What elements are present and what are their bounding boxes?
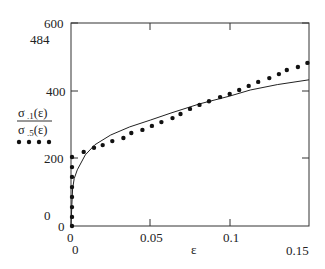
y-tick-0: 0: [58, 219, 65, 234]
data-point: [70, 205, 74, 209]
plot-frame: [71, 23, 309, 226]
x-tick-0.15: 0.15: [286, 243, 309, 258]
data-point: [82, 150, 86, 154]
x-axis-ticks: [150, 23, 230, 226]
data-point: [70, 155, 74, 159]
data-point: [188, 107, 192, 111]
data-point: [70, 224, 74, 228]
y-annotation-484: 484: [30, 32, 50, 47]
series-sigma-0.1-line: [71, 80, 309, 226]
data-point: [110, 139, 114, 143]
data-point: [197, 103, 201, 107]
data-point: [277, 72, 281, 76]
data-point: [70, 215, 74, 219]
data-point: [121, 136, 125, 140]
data-point: [129, 131, 133, 135]
x-tick-0.05: 0.05: [140, 230, 163, 245]
y-tick-600: 600: [44, 16, 64, 31]
data-point: [159, 120, 163, 124]
data-point: [178, 112, 182, 116]
data-point: [70, 195, 74, 199]
legend-dotted-marker: [17, 140, 51, 144]
data-point: [256, 80, 260, 84]
data-point: [70, 185, 74, 189]
data-point: [92, 146, 96, 150]
y-tick-200: 200: [44, 151, 64, 166]
data-point: [207, 99, 211, 103]
data-point: [70, 175, 74, 179]
stress-strain-chart: 600 484 400 200 0 0 0 0 0.05 0.1 0.15 ε …: [0, 0, 325, 269]
data-point: [150, 124, 154, 128]
x-tick-0.1: 0.1: [223, 230, 239, 245]
legend-denominator: σ .5(ε): [18, 123, 47, 138]
data-point: [140, 128, 144, 132]
data-point: [170, 116, 174, 120]
data-point: [296, 65, 300, 69]
data-point: [70, 165, 74, 169]
data-point: [247, 84, 251, 88]
data-point: [237, 88, 241, 92]
data-point: [218, 95, 222, 99]
legend-numerator: σ .1(ε): [18, 106, 47, 121]
data-point: [228, 92, 232, 96]
data-point: [285, 68, 289, 72]
x-axis-label: ε: [191, 242, 197, 257]
data-point: [305, 61, 309, 65]
data-point: [267, 76, 271, 80]
x-label-0b: 0: [72, 242, 79, 257]
y-label-0a: 0: [44, 208, 51, 223]
legend: σ .1(ε) σ .5(ε): [17, 106, 52, 144]
data-point: [101, 143, 105, 147]
y-tick-400: 400: [46, 84, 66, 99]
